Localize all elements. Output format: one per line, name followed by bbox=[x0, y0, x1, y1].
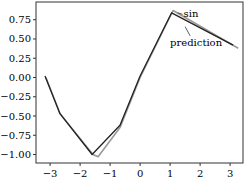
y-tick-label: 0.00 bbox=[9, 72, 31, 83]
x-tick-label: 0 bbox=[137, 168, 143, 179]
y-tick-label: −0.75 bbox=[0, 130, 31, 141]
y-tick-label: −1.00 bbox=[0, 149, 31, 160]
x-tick-label: 2 bbox=[197, 168, 203, 179]
x-tick-label: −2 bbox=[73, 168, 88, 179]
y-axis: 0.750.500.250.00−0.25−0.50−0.75−1.00 bbox=[0, 14, 36, 160]
x-tick-label: −3 bbox=[43, 168, 58, 179]
y-tick-label: 0.75 bbox=[9, 14, 31, 25]
y-tick-label: 0.25 bbox=[9, 53, 31, 64]
x-tick-label: 3 bbox=[227, 168, 233, 179]
annotation-sin: sin bbox=[184, 8, 199, 19]
x-tick-label: 1 bbox=[167, 168, 173, 179]
y-tick-label: 0.50 bbox=[9, 33, 31, 44]
y-tick-label: −0.25 bbox=[0, 91, 31, 102]
plot-area bbox=[36, 2, 243, 163]
x-tick-label: −1 bbox=[103, 168, 118, 179]
annotation-prediction: prediction bbox=[170, 37, 223, 48]
x-axis: −3−2−10123 bbox=[43, 163, 234, 179]
y-tick-label: −0.50 bbox=[0, 111, 31, 122]
line-chart: −3−2−10123 0.750.500.250.00−0.25−0.50−0.… bbox=[0, 0, 249, 184]
